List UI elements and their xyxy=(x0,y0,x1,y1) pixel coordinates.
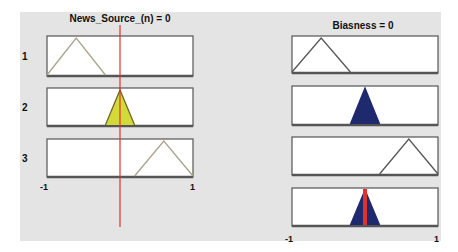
output-tick-min: -1 xyxy=(285,234,293,244)
output-row-1-box xyxy=(292,36,438,73)
output-tick-max: 1 xyxy=(434,234,439,244)
input-row-label-2: 2 xyxy=(22,102,28,113)
input-title: News_Source_(n) = 0 xyxy=(70,13,171,24)
input-row-label-3: 3 xyxy=(22,153,28,164)
output-title: Biasness = 0 xyxy=(333,20,394,31)
input-tick-max: 1 xyxy=(190,182,195,192)
input-tick-min: -1 xyxy=(40,182,48,192)
rule-viewer-chart: News_Source_(n) = 0 Biasness = 0 123 -1 … xyxy=(0,0,458,252)
input-row-label-1: 1 xyxy=(22,51,28,62)
output-row-3-box xyxy=(292,137,438,175)
